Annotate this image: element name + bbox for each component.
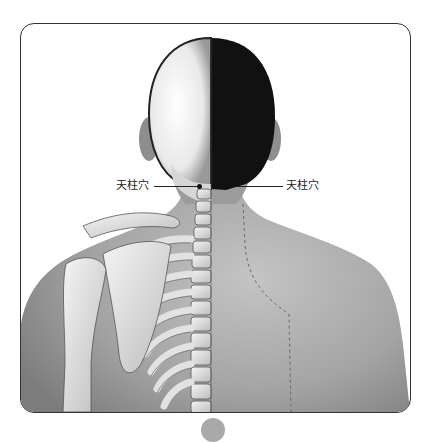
back-anatomy-illustration [21, 24, 410, 412]
tianzhu-acupoint-marker [197, 184, 202, 189]
cropped-caption-text [18, 0, 298, 3]
right-label-leader-line [236, 186, 283, 187]
page-indicator-circle [201, 418, 225, 442]
hair-right-half [211, 38, 275, 190]
left-label-leader-line [154, 186, 198, 187]
acupoint-label-right: 天柱穴 [286, 180, 319, 192]
illustration-frame: 天柱穴 天柱穴 [20, 23, 411, 413]
skull-left-half [149, 38, 211, 189]
acupoint-label-left: 天柱穴 [116, 180, 149, 192]
